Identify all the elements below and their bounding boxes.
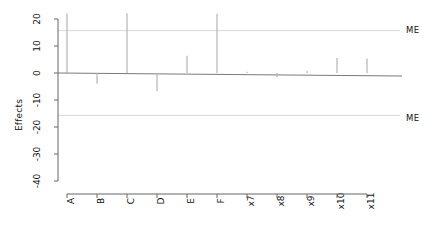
plot-area bbox=[0, 0, 445, 230]
effects-plot: Effects 20 10 0 -10 -20 -30 -40 A B C D … bbox=[0, 0, 445, 230]
zero-baseline bbox=[58, 73, 402, 76]
